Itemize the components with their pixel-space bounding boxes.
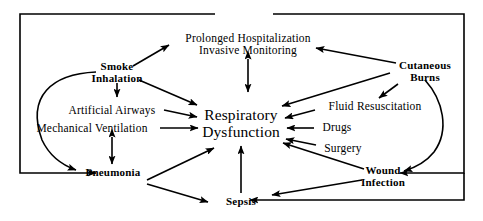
edge-pneumonia-to-respiratory-dysfunction <box>147 148 214 180</box>
node-artificial-airways-line1: Artificial Airways <box>69 104 156 116</box>
node-pneumonia: Pneumonia <box>86 167 141 179</box>
node-mechanical-ventilation: Mechanical Ventilation <box>36 122 147 134</box>
node-drugs-line1: Drugs <box>322 121 351 133</box>
node-cutaneous-burns-line2: Burns <box>399 72 451 84</box>
node-prolonged-hospitalization: Prolonged Hospitalization Invasive Monit… <box>185 32 310 57</box>
node-fluid-resuscitation-line1: Fluid Resuscitation <box>329 100 422 112</box>
respiratory-dysfunction-diagram: Prolonged Hospitalization Invasive Monit… <box>0 0 483 221</box>
node-respiratory-dysfunction-line2: Dysfunction <box>202 124 280 141</box>
node-sepsis: Sepsis <box>226 196 256 208</box>
node-prolonged-hospitalization-line2: Invasive Monitoring <box>185 44 310 56</box>
node-artificial-airways: Artificial Airways <box>69 104 156 116</box>
edge-surgery-to-respiratory-dysfunction <box>286 139 316 145</box>
node-fluid-resuscitation: Fluid Resuscitation <box>329 100 422 112</box>
node-wound-infection: Wound Infection <box>361 165 405 189</box>
node-wound-infection-line2: Infection <box>361 177 405 189</box>
node-surgery-line1: Surgery <box>324 142 362 154</box>
node-respiratory-dysfunction: Respiratory Dysfunction <box>202 107 280 140</box>
edge-wound-infection-to-sepsis <box>272 180 362 195</box>
edge-pneumonia-to-sepsis <box>147 184 208 202</box>
edge-smoke-inhalation-to-respiratory-dysfunction <box>139 80 197 105</box>
node-drugs: Drugs <box>322 121 351 133</box>
node-cutaneous-burns: Cutaneous Burns <box>399 60 451 84</box>
edge-cutaneous-burns-to-wound-infection <box>404 80 443 171</box>
node-mechanical-ventilation-line1: Mechanical Ventilation <box>36 122 147 134</box>
node-respiratory-dysfunction-line1: Respiratory <box>202 107 280 124</box>
node-prolonged-hospitalization-line1: Prolonged Hospitalization <box>185 32 310 44</box>
edge-cutaneous-burns-to-hospitalization <box>316 48 396 63</box>
edge-fluid-resuscitation-to-respiratory-dysfunction <box>285 110 315 118</box>
node-smoke-inhalation-line2: Inhalation <box>92 73 143 85</box>
right-feedback-frame-lower <box>250 173 464 200</box>
node-smoke-inhalation: Smoke Inhalation <box>92 61 143 85</box>
node-sepsis-line1: Sepsis <box>226 196 256 208</box>
edge-cutaneous-burns-to-fluid-resuscitation <box>379 84 398 98</box>
node-surgery: Surgery <box>324 142 362 154</box>
node-pneumonia-line1: Pneumonia <box>86 167 141 179</box>
edge-artificial-airways-to-respiratory-dysfunction <box>164 110 197 117</box>
